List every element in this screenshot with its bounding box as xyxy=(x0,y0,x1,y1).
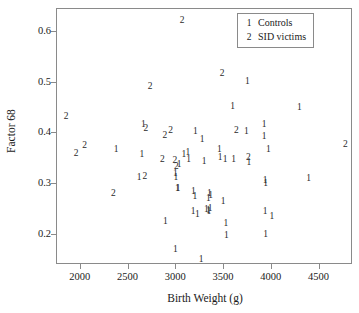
legend: 1 Controls 2 SID victims xyxy=(237,13,314,48)
legend-item-sid-victims: 2 SID victims xyxy=(243,30,306,44)
data-point-1: 1 xyxy=(221,219,231,229)
y-tick-label: 0.6 xyxy=(21,26,51,37)
y-axis-title-text: Factor 68 xyxy=(5,109,17,153)
x-tick-mark xyxy=(271,264,272,269)
data-point-1: 1 xyxy=(241,127,251,137)
x-tick-mark xyxy=(319,264,320,269)
data-point-2: 2 xyxy=(166,126,176,136)
data-point-1: 1 xyxy=(261,179,271,189)
legend-label-controls: Controls xyxy=(255,16,292,30)
x-tick-label: 3000 xyxy=(155,272,195,283)
data-point-1: 1 xyxy=(137,150,147,160)
data-point-2: 2 xyxy=(177,16,187,26)
y-tick-mark xyxy=(51,31,56,32)
data-point-1: 1 xyxy=(294,103,304,113)
x-tick-label: 4000 xyxy=(251,272,291,283)
data-point-2: 2 xyxy=(231,126,241,136)
data-point-2: 2 xyxy=(157,155,167,165)
x-axis-title-text: Birth Weight (g) xyxy=(167,292,243,304)
data-point-1: 1 xyxy=(229,155,239,165)
x-tick-mark xyxy=(175,264,176,269)
x-tick-mark xyxy=(128,264,129,269)
data-point-2: 2 xyxy=(243,153,253,163)
x-tick-label: 2000 xyxy=(60,272,100,283)
data-point-1: 1 xyxy=(197,135,207,145)
y-tick-label: 0.2 xyxy=(21,229,51,240)
data-point-1: 1 xyxy=(259,132,269,142)
data-point-1: 1 xyxy=(170,245,180,255)
data-point-1: 1 xyxy=(218,197,228,207)
data-point-2: 2 xyxy=(145,82,155,92)
y-tick-label: 0.5 xyxy=(21,77,51,88)
x-tick-mark xyxy=(80,264,81,269)
data-point-2: 2 xyxy=(340,140,350,150)
data-point-1: 1 xyxy=(173,184,183,194)
legend-key-2: 2 xyxy=(243,31,255,44)
data-point-2: 2 xyxy=(140,172,150,182)
data-point-2: 2 xyxy=(217,69,227,79)
data-point-1: 1 xyxy=(205,204,215,214)
data-point-2: 2 xyxy=(171,162,181,172)
y-tick-mark xyxy=(51,132,56,133)
data-point-2: 2 xyxy=(141,124,151,134)
x-tick-mark xyxy=(223,264,224,269)
y-tick-mark xyxy=(51,82,56,83)
data-point-1: 1 xyxy=(192,210,202,220)
x-tick-label: 3500 xyxy=(203,272,243,283)
legend-item-controls: 1 Controls xyxy=(243,16,306,30)
data-point-1: 1 xyxy=(259,120,269,130)
data-point-2: 2 xyxy=(61,112,71,122)
data-point-1: 1 xyxy=(228,102,238,112)
data-point-1: 1 xyxy=(304,174,314,184)
data-point-2: 2 xyxy=(80,141,90,151)
data-point-1: 1 xyxy=(171,173,181,183)
y-tick-mark xyxy=(51,183,56,184)
data-point-1: 1 xyxy=(263,145,273,155)
data-point-1: 1 xyxy=(184,155,194,165)
data-point-1: 1 xyxy=(261,230,271,240)
data-point-1: 1 xyxy=(196,255,206,265)
legend-label-sid-victims: SID victims xyxy=(255,30,306,44)
data-point-1: 1 xyxy=(221,231,231,241)
data-point-1: 1 xyxy=(190,192,200,202)
data-point-1: 1 xyxy=(267,212,277,222)
x-axis-title: Birth Weight (g) xyxy=(55,292,355,304)
x-tick-label: 2500 xyxy=(108,272,148,283)
data-point-2: 2 xyxy=(108,189,118,199)
data-point-1: 1 xyxy=(242,77,252,87)
y-axis-title: Factor 68 xyxy=(0,0,22,262)
x-tick-label: 4500 xyxy=(299,272,339,283)
y-tick-label: 0.4 xyxy=(21,127,51,138)
y-tick-label: 0.3 xyxy=(21,178,51,189)
data-point-1: 1 xyxy=(111,145,121,155)
data-point-1: 1 xyxy=(160,217,170,227)
legend-key-1: 1 xyxy=(243,17,255,30)
data-point-1: 1 xyxy=(206,191,216,201)
data-point-1: 1 xyxy=(199,157,209,167)
y-tick-mark xyxy=(51,234,56,235)
scatter-plot-figure: Factor 68 0.20.30.40.50.6 20002500300035… xyxy=(0,0,359,313)
